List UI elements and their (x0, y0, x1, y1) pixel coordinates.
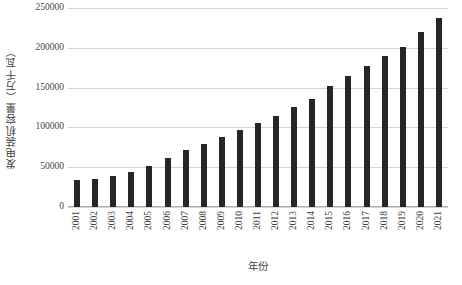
x-slot: 2006 (158, 207, 176, 255)
bar-slot (249, 8, 267, 207)
bar-slot (430, 8, 448, 207)
y-tick-label: 250000 (22, 3, 68, 13)
y-axis-title-text: 发电装机容量（万千瓦） (4, 46, 19, 169)
x-tick-label: 2017 (362, 211, 372, 230)
x-tick-label: 2002 (90, 211, 100, 230)
y-tick-label: 100000 (22, 123, 68, 133)
x-slot: 2013 (285, 207, 303, 255)
x-tick-label: 2018 (380, 211, 390, 230)
x-slot: 2020 (412, 207, 430, 255)
x-slot: 2015 (321, 207, 339, 255)
bar (219, 137, 225, 207)
x-slot: 2017 (358, 207, 376, 255)
bar (400, 47, 406, 207)
x-tick-label: 2009 (217, 211, 227, 230)
x-slot: 2001 (68, 207, 86, 255)
bar (110, 176, 116, 207)
x-axis-ticks: 2001200220032004200520062007200820092010… (68, 207, 448, 255)
x-slot: 2014 (303, 207, 321, 255)
bar (201, 144, 207, 207)
bar-slot (231, 8, 249, 207)
bar-slot (267, 8, 285, 207)
x-slot: 2009 (213, 207, 231, 255)
x-slot: 2016 (339, 207, 357, 255)
bar (255, 123, 261, 207)
x-slot: 2008 (195, 207, 213, 255)
x-tick-label: 2006 (163, 211, 173, 230)
bar-slot (158, 8, 176, 207)
bar-slot (195, 8, 213, 207)
bar-slot (177, 8, 195, 207)
x-slot: 2003 (104, 207, 122, 255)
bar (128, 172, 134, 207)
y-tick-label: 0 (22, 202, 68, 212)
bar-slot (140, 8, 158, 207)
bar-slot (358, 8, 376, 207)
bar (345, 76, 351, 207)
bar (327, 86, 333, 207)
x-tick-label: 2021 (434, 211, 444, 230)
bar-slot (376, 8, 394, 207)
x-tick-label: 2015 (325, 211, 335, 230)
bar-slot (68, 8, 86, 207)
x-tick-label: 2008 (199, 211, 209, 230)
bar (146, 166, 152, 207)
x-tick-label: 2007 (181, 211, 191, 230)
x-tick-label: 2012 (271, 211, 281, 230)
bar (273, 116, 279, 207)
bar-slot (122, 8, 140, 207)
bar (237, 130, 243, 207)
y-tick-label: 150000 (22, 83, 68, 93)
bar-series (68, 8, 448, 207)
x-slot: 2005 (140, 207, 158, 255)
bar (436, 18, 442, 207)
x-tick-label: 2014 (307, 211, 317, 230)
x-axis-title: 年份 (68, 258, 448, 273)
x-slot: 2021 (430, 207, 448, 255)
bar (165, 158, 171, 208)
x-tick-label: 2020 (416, 211, 426, 230)
x-slot: 2004 (122, 207, 140, 255)
x-tick-label: 2016 (343, 211, 353, 230)
bar (183, 150, 189, 207)
x-tick-label: 2004 (126, 211, 136, 230)
bar-slot (303, 8, 321, 207)
x-slot: 2019 (394, 207, 412, 255)
x-tick-label: 2013 (289, 211, 299, 230)
bar-slot (213, 8, 231, 207)
x-tick-label: 2010 (235, 211, 245, 230)
bar-slot (285, 8, 303, 207)
x-tick-label: 2001 (72, 211, 82, 230)
bar-slot (104, 8, 122, 207)
x-tick-label: 2011 (253, 211, 263, 230)
x-slot: 2002 (86, 207, 104, 255)
bar-slot (394, 8, 412, 207)
bar (74, 180, 80, 207)
y-tick-label: 50000 (22, 162, 68, 172)
bar (418, 32, 424, 207)
y-axis-title: 发电装机容量（万千瓦） (0, 0, 22, 215)
x-tick-label: 2019 (398, 211, 408, 230)
bar-slot (86, 8, 104, 207)
bar (92, 179, 98, 207)
bar-chart: 发电装机容量（万千瓦） 0500001000001500002000002500… (0, 0, 462, 285)
x-tick-label: 2003 (108, 211, 118, 230)
y-axis-ticks: 050000100000150000200000250000 (22, 0, 68, 215)
bar-slot (339, 8, 357, 207)
x-slot: 2011 (249, 207, 267, 255)
plot-area (68, 8, 448, 207)
bar-slot (412, 8, 430, 207)
bar (382, 56, 388, 207)
x-slot: 2007 (177, 207, 195, 255)
bar (309, 99, 315, 207)
x-slot: 2010 (231, 207, 249, 255)
x-slot: 2012 (267, 207, 285, 255)
y-tick-label: 200000 (22, 43, 68, 53)
bar (291, 107, 297, 207)
x-tick-label: 2005 (144, 211, 154, 230)
bar-slot (321, 8, 339, 207)
x-slot: 2018 (376, 207, 394, 255)
bar (364, 66, 370, 207)
